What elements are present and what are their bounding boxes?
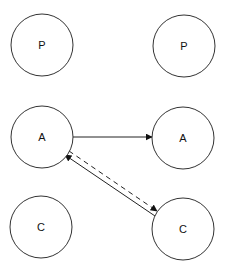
node-label: C: [37, 221, 45, 233]
node-a-left: A: [11, 106, 73, 168]
diagram-canvas: PPAACC: [0, 0, 226, 266]
edge-c-right-to-a-left: [65, 155, 155, 216]
node-c-right: C: [152, 198, 214, 260]
node-label: C: [179, 223, 187, 235]
node-p-left: P: [11, 14, 73, 76]
node-a-right: A: [152, 107, 214, 169]
node-label: A: [38, 131, 46, 143]
edge-a-left-to-c-right: [69, 151, 157, 211]
node-label: P: [38, 39, 45, 51]
node-label: P: [180, 40, 187, 52]
node-label: A: [179, 132, 187, 144]
node-c-left: C: [10, 196, 72, 258]
node-p-right: P: [153, 15, 215, 77]
edges-layer: [65, 137, 157, 216]
